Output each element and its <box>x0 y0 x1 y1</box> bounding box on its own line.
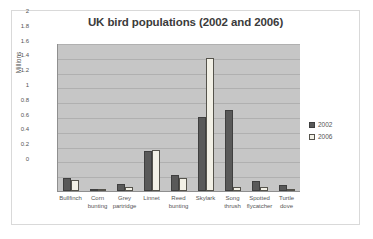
y-axis-tick-labels: 21.81.61.41.210.80.60.40.20 <box>9 11 29 159</box>
chart-legend: 20022006 <box>309 121 355 145</box>
bar-2002[interactable] <box>198 117 206 191</box>
legend-swatch-icon <box>309 122 315 128</box>
x-axis-tick-label: Grey partridge <box>111 194 138 210</box>
bar-2006[interactable] <box>98 189 106 191</box>
bar-2002[interactable] <box>171 175 179 191</box>
bar-2006[interactable] <box>206 58 214 191</box>
bar-group <box>139 44 166 191</box>
y-axis-tick-label: 2 <box>13 8 29 14</box>
y-axis-tick-label: 0.4 <box>13 126 29 132</box>
legend-item[interactable]: 2006 <box>309 133 355 140</box>
y-axis-tick-label: 1.2 <box>13 67 29 73</box>
bar-2006[interactable] <box>233 187 241 191</box>
bar-2002[interactable] <box>225 110 233 191</box>
legend-label: 2002 <box>318 121 332 128</box>
bar-2002[interactable] <box>63 178 71 191</box>
y-axis-tick-label: 0.6 <box>13 112 29 118</box>
bar-2002[interactable] <box>90 189 98 191</box>
bar-group <box>58 44 85 191</box>
chart-title: UK bird populations (2002 and 2006) <box>12 16 359 28</box>
bar-group <box>273 44 300 191</box>
bar-2002[interactable] <box>252 181 260 191</box>
legend-label: 2006 <box>318 133 332 140</box>
bar-group <box>166 44 193 191</box>
bar-2002[interactable] <box>279 185 287 191</box>
bar-group <box>219 44 246 191</box>
legend-swatch-icon <box>309 134 315 140</box>
x-axis-tick-label: Spotted flycatcher <box>246 194 273 210</box>
bar-2006[interactable] <box>287 189 295 191</box>
bar-group <box>85 44 112 191</box>
x-axis-tick-label: Skylark <box>192 194 219 210</box>
bars-layer <box>58 44 300 191</box>
x-axis-tick-label: Turtle dove <box>273 194 300 210</box>
y-axis-tick-label: 0 <box>13 156 29 162</box>
x-axis-tick-label: Linnet <box>138 194 165 210</box>
y-axis-tick-label: 1.8 <box>13 23 29 29</box>
y-axis-tick-label: 1 <box>13 82 29 88</box>
chart-container: UK bird populations (2002 and 2006) Mill… <box>11 10 360 225</box>
bar-group <box>112 44 139 191</box>
y-axis-tick-label: 1.6 <box>13 38 29 44</box>
bar-2006[interactable] <box>71 180 79 191</box>
x-axis-tick-labels: BullfinchCorn buntingGrey partridgeLinne… <box>57 194 300 210</box>
y-axis-tick-label: 0.8 <box>13 97 29 103</box>
bar-2002[interactable] <box>117 184 125 191</box>
x-axis-tick-label: Reed bunting <box>165 194 192 210</box>
gridline <box>58 191 300 192</box>
bar-2006[interactable] <box>152 150 160 191</box>
x-axis-tick-label: Bullfinch <box>57 194 84 210</box>
x-axis-tick-label: Song thrush <box>219 194 246 210</box>
plot-area-wrapper <box>57 44 300 192</box>
bar-group <box>246 44 273 191</box>
bar-2006[interactable] <box>179 178 187 191</box>
x-axis-tick-label: Corn bunting <box>84 194 111 210</box>
bar-2006[interactable] <box>260 187 268 191</box>
y-axis-tick-label: 1.4 <box>13 52 29 58</box>
y-axis-tick-label: 0.2 <box>13 141 29 147</box>
legend-item[interactable]: 2002 <box>309 121 355 128</box>
bar-group <box>192 44 219 191</box>
plot-area <box>57 44 300 192</box>
bar-2002[interactable] <box>144 151 152 191</box>
bar-2006[interactable] <box>125 187 133 191</box>
